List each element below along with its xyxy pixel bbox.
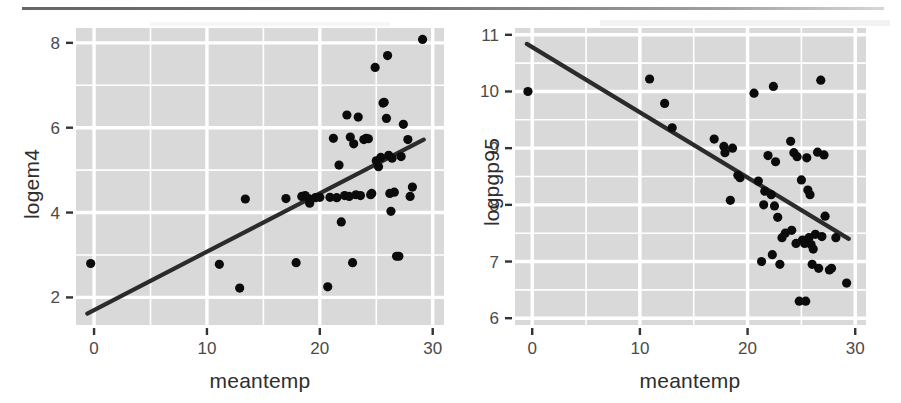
- y-tick-label: 11: [481, 26, 499, 45]
- data-point: [332, 193, 341, 202]
- data-point: [668, 123, 677, 132]
- data-point: [769, 82, 778, 91]
- data-point: [749, 89, 758, 98]
- data-point: [387, 154, 396, 163]
- data-point: [768, 250, 777, 259]
- data-point: [348, 258, 357, 267]
- data-point: [406, 192, 415, 201]
- data-point: [814, 264, 823, 273]
- y-tick-label: 6: [490, 309, 499, 328]
- data-point: [349, 139, 358, 148]
- data-point: [754, 176, 763, 185]
- data-point: [767, 190, 776, 199]
- figure-page: 01020302468 meantemp logem4 010203067891…: [0, 0, 901, 403]
- data-point: [334, 160, 343, 169]
- x-tick-label: 20: [738, 339, 757, 358]
- x-tick-label: 30: [423, 339, 442, 358]
- data-point: [354, 113, 363, 122]
- data-point: [382, 114, 391, 123]
- data-point: [342, 110, 351, 119]
- data-point: [816, 76, 825, 85]
- scatter-plot-logpgp95: 010203067891011 meantemp logpgp95: [460, 0, 901, 403]
- data-point: [380, 98, 389, 107]
- data-point: [215, 260, 224, 269]
- x-tick-label: 20: [310, 339, 329, 358]
- y-tick-label: 4: [51, 204, 60, 223]
- y-tick-label: 10: [480, 82, 499, 101]
- data-point: [735, 173, 744, 182]
- data-point: [759, 200, 768, 209]
- data-point: [726, 196, 735, 205]
- data-point: [86, 259, 95, 268]
- data-point: [773, 213, 782, 222]
- data-point: [403, 135, 412, 144]
- data-point: [645, 74, 654, 83]
- data-point: [809, 244, 818, 253]
- data-point: [775, 260, 784, 269]
- x-tick-label: 10: [197, 339, 216, 358]
- data-point: [771, 157, 780, 166]
- y-axis-label-left: logem4: [20, 134, 44, 234]
- data-point: [397, 152, 406, 161]
- data-point: [786, 137, 795, 146]
- data-point: [797, 175, 806, 184]
- data-point: [367, 189, 376, 198]
- data-point: [386, 207, 395, 216]
- data-point: [523, 87, 532, 96]
- data-point: [805, 190, 814, 199]
- data-point: [787, 226, 796, 235]
- data-point: [399, 120, 408, 129]
- data-point: [763, 151, 772, 160]
- data-point: [390, 188, 399, 197]
- data-point: [842, 278, 851, 287]
- data-point: [374, 162, 383, 171]
- x-tick-label: 0: [527, 339, 536, 358]
- x-tick-label: 30: [846, 339, 865, 358]
- data-point: [235, 283, 244, 292]
- data-point: [418, 35, 427, 44]
- data-point: [831, 233, 840, 242]
- x-tick-label: 0: [89, 339, 98, 358]
- data-point: [394, 252, 403, 261]
- y-tick-label: 8: [51, 34, 60, 53]
- data-point: [819, 150, 828, 159]
- data-point: [241, 194, 250, 203]
- y-axis-label-right: logpgp95: [480, 117, 504, 247]
- data-point: [408, 183, 417, 192]
- data-point: [329, 134, 338, 143]
- data-point: [728, 144, 737, 153]
- data-point: [323, 282, 332, 291]
- data-point: [757, 257, 766, 266]
- data-point: [660, 99, 669, 108]
- x-axis-label-left: meantemp: [76, 369, 444, 393]
- data-point: [820, 212, 829, 221]
- y-tick-label: 2: [51, 288, 60, 307]
- panel-canvas-right: 010203067891011: [460, 0, 901, 403]
- data-point: [710, 134, 719, 143]
- x-tick-label: 10: [630, 339, 649, 358]
- data-point: [383, 51, 392, 60]
- data-point: [802, 153, 811, 162]
- data-point: [827, 264, 836, 273]
- data-point: [356, 191, 365, 200]
- data-point: [364, 134, 373, 143]
- data-point: [281, 194, 290, 203]
- data-point: [376, 153, 385, 162]
- y-tick-label: 6: [51, 119, 60, 138]
- data-point: [315, 193, 324, 202]
- panel-background: [76, 28, 444, 325]
- data-point: [337, 217, 346, 226]
- data-point: [770, 201, 779, 210]
- data-point: [817, 232, 826, 241]
- data-point: [792, 152, 801, 161]
- data-point: [292, 258, 301, 267]
- panel-canvas-left: 01020302468: [0, 0, 460, 403]
- y-tick-label: 7: [490, 253, 499, 272]
- x-axis-label-right: meantemp: [515, 369, 865, 393]
- data-point: [801, 297, 810, 306]
- scatter-plot-logem4: 01020302468 meantemp logem4: [0, 0, 460, 403]
- data-point: [371, 63, 380, 72]
